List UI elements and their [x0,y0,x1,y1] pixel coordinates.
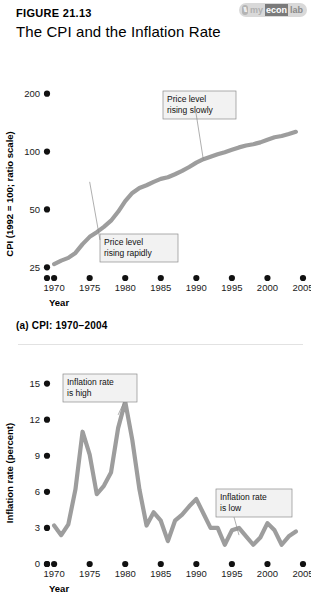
x-tick-2000: 2000 [257,561,278,579]
svg-text:is high: is high [67,388,92,398]
x-tick-1990: 1990 [186,561,207,579]
svg-text:1985: 1985 [150,282,171,293]
svg-text:Price level: Price level [104,237,143,247]
svg-text:1990: 1990 [186,282,207,293]
svg-text:1985: 1985 [150,568,171,579]
page-title: The CPI and the Inflation Rate [16,22,296,41]
annotation-inflation-low: Inflation rateis low [216,489,292,535]
svg-text:2005: 2005 [292,568,311,579]
svg-text:200: 200 [24,88,40,99]
svg-text:9: 9 [35,450,40,461]
myeconlab-logo[interactable]: \\ my econ lab [239,3,308,17]
x-tick-1995: 1995 [221,561,242,579]
x-tick-1975: 1975 [79,275,100,293]
cpi-chart-svg: 2550100200197019751980198519901995200020… [0,62,311,330]
svg-text:1990: 1990 [186,568,207,579]
inflation-chart-panel: 0369121519701975198019851990199520002005… [0,356,311,606]
y-axis-label: CPI (1992 = 100; ratio scale) [4,131,15,256]
svg-text:25: 25 [29,262,40,273]
svg-text:15: 15 [29,378,40,389]
svg-text:is low: is low [220,503,242,513]
svg-text:0: 0 [35,558,40,569]
x-tick-1975: 1975 [79,561,100,579]
svg-text:rising slowly: rising slowly [167,105,214,115]
panel-divider [18,344,303,345]
x-tick-2000: 2000 [257,275,278,293]
svg-text:12: 12 [29,414,40,425]
svg-text:1970: 1970 [44,568,65,579]
svg-text:1970: 1970 [44,282,65,293]
svg-text:100: 100 [24,146,40,157]
y-tick-3: 3 [35,522,50,533]
x-axis-label: Year [49,583,69,594]
svg-text:2005: 2005 [292,282,311,293]
svg-text:2000: 2000 [257,568,278,579]
y-axis-label: Inflation rate (percent) [4,423,15,523]
y-tick-9: 9 [35,450,50,461]
svg-text:6: 6 [35,486,40,497]
inflation-chart-svg: 0369121519701975198019851990199520002005… [0,356,311,606]
x-tick-1980: 1980 [115,561,136,579]
svg-text:2000: 2000 [257,282,278,293]
x-tick-1995: 1995 [221,275,242,293]
svg-text:1995: 1995 [221,568,242,579]
svg-text:1975: 1975 [79,282,100,293]
x-tick-2005: 2005 [292,561,311,579]
brand-lab-label: lab [290,5,303,15]
brand-econ-label: econ [265,4,288,16]
svg-text:1995: 1995 [221,282,242,293]
x-tick-1980: 1980 [115,275,136,293]
x-tick-1990: 1990 [186,275,207,293]
svg-text:1980: 1980 [115,568,136,579]
x-tick-1985: 1985 [150,561,171,579]
axis-origin-dot [44,561,50,567]
svg-text:1980: 1980 [115,282,136,293]
data-series-line [54,402,296,545]
x-tick-2005: 2005 [292,275,311,293]
y-tick-100: 100 [24,146,50,157]
y-tick-12: 12 [29,414,50,425]
x-tick-1985: 1985 [150,275,171,293]
axis-origin-dot [44,275,50,281]
svg-text:1975: 1975 [79,568,100,579]
svg-text:rising rapidly: rising rapidly [104,248,152,258]
y-tick-200: 200 [24,88,50,99]
svg-text:Price level: Price level [167,94,206,104]
panel-a-caption: (a) CPI: 1970–2004 [16,320,107,331]
x-axis-label: Year [49,297,69,308]
brand-my-label: my [250,5,263,15]
svg-text:Inflation rate: Inflation rate [220,492,267,502]
svg-text:3: 3 [35,522,40,533]
cpi-chart-panel: 2550100200197019751980198519901995200020… [0,62,311,330]
svg-text:50: 50 [29,204,40,215]
y-tick-15: 15 [29,378,50,389]
y-tick-50: 50 [29,204,50,215]
svg-text:Inflation rate: Inflation rate [67,377,114,387]
y-tick-6: 6 [35,486,50,497]
myeconlab-mark-icon: \\ [242,5,248,15]
y-tick-25: 25 [29,262,50,273]
